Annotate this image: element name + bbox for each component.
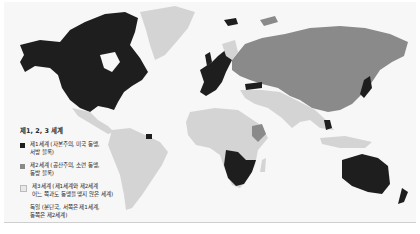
legend-label: 제1세계 (자본주의, 미국 동맹, 서방 블록) [30, 141, 100, 156]
legend-item-first-world: 제1세계 (자본주의, 미국 동맹, 서방 블록) [20, 141, 150, 156]
legend-label: 제2세계 (공산주의, 소련 동맹, 동방 블록) [30, 162, 100, 177]
legend-title: 제1, 2, 3 세계 [20, 125, 150, 135]
australia-first-world [342, 154, 390, 194]
legend-item-third-world: 제3세계 (제1세계와 제2세계 어느 쪽과도 동맹을 맺지 않은 세계) [20, 183, 150, 198]
greenland [140, 6, 195, 60]
map-legend: 제1, 2, 3 세계 제1세계 (자본주의, 미국 동맹, 서방 블록) 제2… [20, 125, 150, 225]
legend-label: 제3세계 (제1세계와 제2세계 어느 쪽과도 동맹을 맺지 않은 세계) [32, 183, 113, 198]
north-america-first-world [20, 12, 148, 112]
germany-swatch [20, 206, 25, 211]
legend-label: 독일 (분단국, 서쪽은 제1세계, 동쪽은 제2세계) [30, 204, 100, 219]
africa [186, 108, 268, 188]
legend-item-germany: 독일 (분단국, 서쪽은 제1세계, 동쪽은 제2세계) [20, 204, 150, 219]
second-world-swatch [20, 164, 25, 169]
first-world-swatch [20, 143, 25, 148]
legend-item-second-world: 제2세계 (공산주의, 소련 동맹, 동방 블록) [20, 162, 150, 177]
third-world-swatch [20, 185, 27, 192]
